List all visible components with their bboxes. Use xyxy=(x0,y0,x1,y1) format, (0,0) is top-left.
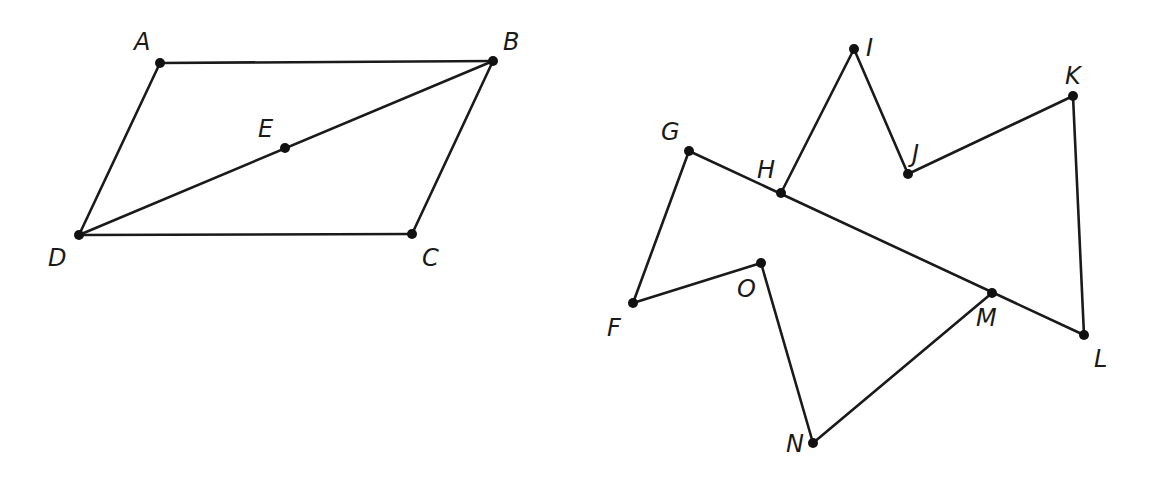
segment-JK xyxy=(908,96,1073,174)
segment-FG xyxy=(633,151,689,303)
label-A: A xyxy=(132,28,150,56)
diagram-svg: ABCDEFGHIJKLMNO xyxy=(0,0,1151,478)
label-C: C xyxy=(422,244,439,272)
point-E xyxy=(280,143,290,153)
points-layer xyxy=(74,44,1089,448)
point-D xyxy=(74,230,84,240)
segment-CD xyxy=(79,234,412,235)
label-B: B xyxy=(503,28,519,56)
point-A xyxy=(155,58,165,68)
segment-AB xyxy=(160,61,493,63)
label-M: M xyxy=(976,304,997,332)
label-K: K xyxy=(1065,62,1083,90)
point-N xyxy=(808,438,818,448)
label-L: L xyxy=(1094,345,1107,373)
label-F: F xyxy=(607,314,622,342)
point-J xyxy=(903,169,913,179)
labels-layer: ABCDEFGHIJKLMNO xyxy=(48,28,1107,458)
point-F xyxy=(628,298,638,308)
point-G xyxy=(684,146,694,156)
label-H: H xyxy=(757,156,775,184)
segment-DA xyxy=(79,63,160,235)
point-L xyxy=(1079,330,1089,340)
segment-HI xyxy=(781,49,854,193)
segment-GL xyxy=(689,151,1084,335)
point-O xyxy=(756,258,766,268)
point-M xyxy=(987,288,997,298)
label-G: G xyxy=(661,118,680,146)
point-I xyxy=(849,44,859,54)
point-K xyxy=(1068,91,1078,101)
label-D: D xyxy=(48,244,66,272)
geometry-diagram: ABCDEFGHIJKLMNO xyxy=(0,0,1151,478)
label-E: E xyxy=(258,115,274,143)
label-I: I xyxy=(866,34,873,62)
segment-KL xyxy=(1073,96,1084,335)
segments-layer xyxy=(79,49,1084,443)
point-H xyxy=(776,188,786,198)
point-C xyxy=(407,229,417,239)
label-O: O xyxy=(737,275,756,303)
label-J: J xyxy=(908,140,919,168)
point-B xyxy=(488,56,498,66)
label-N: N xyxy=(786,430,804,458)
segment-MN xyxy=(813,293,992,443)
segment-NO xyxy=(761,263,813,443)
segment-IJ xyxy=(854,49,908,174)
segment-BC xyxy=(412,61,493,234)
